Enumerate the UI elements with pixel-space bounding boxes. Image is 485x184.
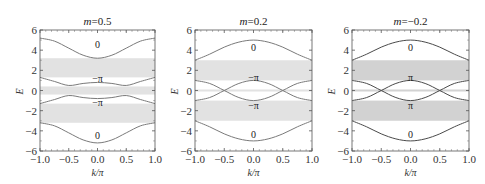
x-axis-label: k/π — [404, 167, 417, 178]
band-winding-annotation: 0 — [251, 129, 256, 140]
panel-title: m=−0.2 — [393, 15, 427, 27]
y-tick-label: −2 — [337, 105, 349, 117]
band-winding-annotation: −π — [92, 97, 103, 108]
band-winding-annotation: 0 — [408, 42, 413, 53]
x-tick-label: 0.5 — [119, 153, 133, 165]
y-tick-label: 4 — [32, 44, 38, 56]
panel-m-neg-0.2: 6420−2−4−6−1.0−0.50.00.51.0k/πEm=−0.20ππ… — [326, 15, 476, 178]
panel-title: m=0.2 — [240, 15, 268, 27]
band-winding-annotation: 0 — [95, 130, 100, 141]
band-winding-annotation: −π — [92, 73, 103, 84]
x-tick-label: −1.0 — [185, 153, 205, 165]
panel-m-0.2: 6420−2−4−6−1.0−0.50.00.51.0k/πEm=0.20−π−… — [169, 15, 319, 178]
x-tick-label: −0.5 — [371, 153, 391, 165]
x-tick-label: −0.5 — [59, 153, 79, 165]
x-tick-label: 0.5 — [433, 153, 447, 165]
band-gap-region — [352, 89, 469, 91]
band-winding-annotation: −π — [248, 72, 259, 83]
band-gap-region — [195, 89, 312, 91]
y-tick-label: 6 — [187, 24, 193, 36]
band-winding-annotation: 0 — [251, 42, 256, 53]
x-axis-label: k/π — [91, 167, 104, 178]
panel-m-0.5: 6420−2−4−6−1.0−0.50.00.51.0k/πEm=0.50−π−… — [14, 15, 162, 178]
x-axis-label: k/π — [247, 167, 260, 178]
y-tick-label: 4 — [187, 44, 193, 56]
band-winding-annotation: 0 — [408, 129, 413, 140]
y-tick-label: −4 — [180, 125, 192, 137]
x-tick-label: −0.5 — [214, 153, 234, 165]
y-tick-label: 0 — [187, 85, 193, 97]
band-winding-annotation: −π — [248, 100, 259, 111]
y-tick-label: 2 — [344, 64, 350, 76]
x-tick-label: −1.0 — [342, 153, 362, 165]
x-tick-label: 0.0 — [404, 153, 418, 165]
y-tick-label: 0 — [32, 85, 38, 97]
y-tick-label: 4 — [344, 44, 350, 56]
y-tick-label: 2 — [32, 64, 38, 76]
x-tick-label: −1.0 — [30, 153, 50, 165]
x-tick-label: 0.0 — [247, 153, 261, 165]
x-tick-label: 1.0 — [148, 153, 162, 165]
y-tick-label: 0 — [344, 85, 350, 97]
y-tick-label: −2 — [25, 105, 37, 117]
x-tick-label: 1.0 — [305, 153, 319, 165]
y-axis-label: E — [14, 88, 25, 95]
band-winding-annotation: π — [408, 72, 413, 83]
band-winding-annotation: 0 — [95, 39, 100, 50]
panel-title: m=0.5 — [84, 15, 112, 27]
x-tick-label: 0.0 — [91, 153, 105, 165]
y-tick-label: −4 — [337, 125, 349, 137]
band-gap-region — [40, 86, 155, 94]
y-tick-label: −2 — [180, 105, 192, 117]
y-tick-label: −4 — [25, 125, 37, 137]
x-tick-label: 1.0 — [462, 153, 476, 165]
band-winding-annotation: π — [408, 100, 413, 111]
x-tick-label: 0.5 — [276, 153, 290, 165]
y-tick-label: 2 — [187, 64, 193, 76]
y-tick-label: 6 — [344, 24, 350, 36]
band-structure-figure: 6420−2−4−6−1.0−0.50.00.51.0k/πEm=0.50−π−… — [0, 0, 485, 184]
y-axis-label: E — [169, 88, 180, 95]
y-axis-label: E — [326, 88, 337, 95]
y-tick-label: 6 — [32, 24, 38, 36]
